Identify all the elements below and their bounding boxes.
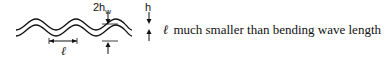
amplitude-dimension [147, 12, 152, 41]
wavelength-label: ℓ [61, 44, 66, 58]
wall-thickness-dimension [102, 12, 118, 54]
caption-text: much smaller than bending wave length [173, 22, 381, 37]
amplitude-label: h [145, 1, 151, 13]
lower-wave-line [16, 25, 132, 36]
caption-symbol: ℓ [163, 22, 168, 37]
wall-thickness-label: 2hw [93, 1, 111, 16]
caption: ℓmuch smaller than bending wave length [163, 22, 381, 38]
corrugated-wall-diagram: ℓ 2hw h ℓmuch smaller than bending wave … [0, 0, 385, 61]
